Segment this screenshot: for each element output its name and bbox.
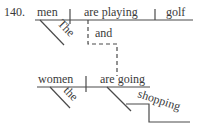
clause2-verb: are going <box>100 72 145 86</box>
clause1-subject: men <box>37 5 58 19</box>
conjunction: and <box>95 26 112 40</box>
clause1-verb: are playing <box>84 5 138 19</box>
complement-slant-line <box>107 87 131 111</box>
clause1-object: golf <box>166 5 185 19</box>
clause2-subject: women <box>38 72 73 86</box>
sentence-diagram: 140. men are playing golf The and women … <box>0 0 197 125</box>
item-number: 140. <box>4 5 25 19</box>
clause2-verb-complement: shopping <box>136 87 182 114</box>
